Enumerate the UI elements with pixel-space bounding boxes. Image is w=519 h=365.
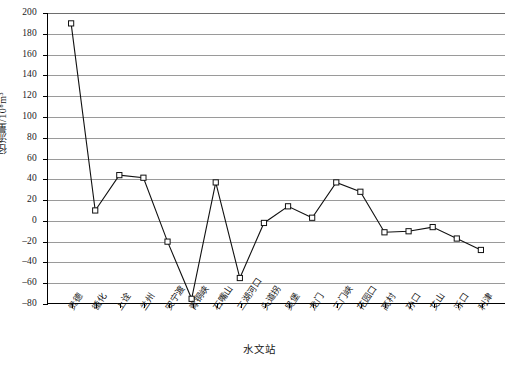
x-axis-category-label: 兰州 bbox=[139, 292, 157, 312]
x-axis-category-label: 循化 bbox=[91, 292, 109, 312]
x-axis-category-label: 吴堡 bbox=[284, 292, 302, 312]
x-axis-category-label: 花园口 bbox=[356, 284, 379, 312]
x-axis-category-label: 泺口 bbox=[453, 292, 471, 312]
x-axis-category-label: 艾山 bbox=[429, 292, 447, 312]
runoff-line-chart: 200180160140120100806040200–20–40–60–80 … bbox=[0, 0, 519, 365]
x-axis-category-label: 石嘴山 bbox=[212, 284, 235, 312]
x-axis-category-label: 上诠 bbox=[115, 292, 133, 312]
x-axis-title: 水文站 bbox=[0, 341, 519, 356]
x-axis-category-label: 高村 bbox=[380, 292, 398, 312]
x-axis-category-label: 青铜峡 bbox=[188, 284, 211, 312]
x-axis-category-label: 孙口 bbox=[405, 292, 423, 312]
x-axis-category-label: 三门峡 bbox=[332, 284, 355, 312]
x-axis-category-label: 头道拐 bbox=[260, 284, 283, 312]
x-axis-category-label: 贵德 bbox=[67, 292, 85, 312]
x-axis-category-label: 安宁渡 bbox=[164, 284, 187, 312]
x-axis-category-label: 龙门 bbox=[308, 292, 326, 312]
x-axis-category-label: 利津 bbox=[477, 292, 495, 312]
x-axis-category-labels: 贵德循化上诠兰州安宁渡青铜峡石嘴山三湖河口头道拐吴堡龙门三门峡花园口高村孙口艾山… bbox=[0, 0, 519, 365]
